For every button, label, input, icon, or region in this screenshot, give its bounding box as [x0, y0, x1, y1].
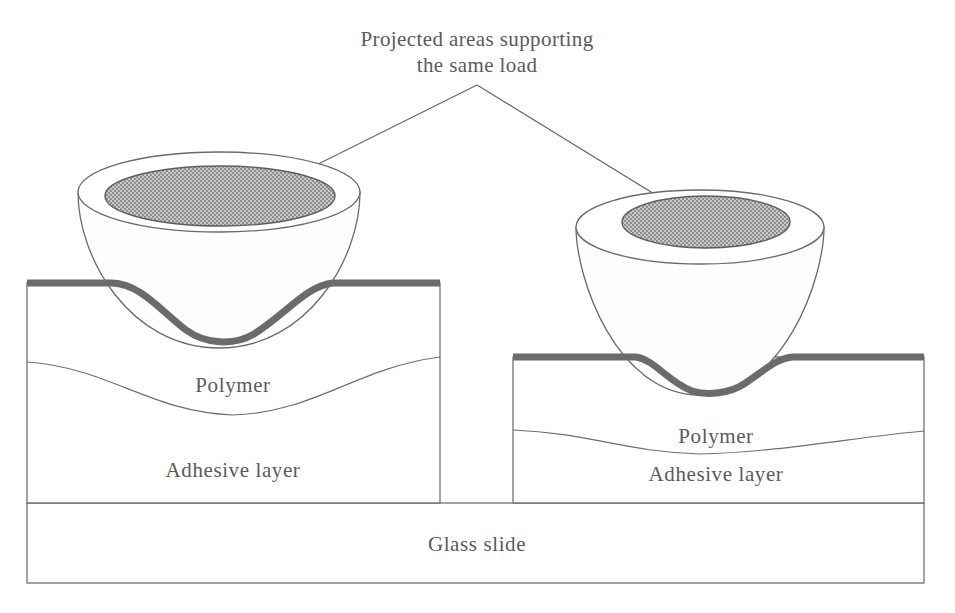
right-adhesive-label: Adhesive layer — [649, 462, 784, 486]
right-projected-area — [622, 196, 790, 248]
glass-slide-label: Glass slide — [428, 532, 526, 556]
caption-line-2: the same load — [417, 53, 538, 77]
caption-block: Projected areas supporting the same load — [360, 27, 593, 77]
caption-line-1: Projected areas supporting — [360, 27, 593, 51]
left-projected-area — [105, 166, 335, 226]
left-adhesive-label: Adhesive layer — [166, 458, 301, 482]
right-polymer-label: Polymer — [678, 424, 753, 448]
left-polymer-label: Polymer — [195, 373, 270, 397]
projected-contact-area-diagram: Projected areas supporting the same load… — [0, 0, 955, 613]
glass-slide-layer: Glass slide — [27, 503, 924, 583]
